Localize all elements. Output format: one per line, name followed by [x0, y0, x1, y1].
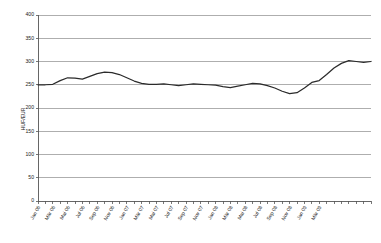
series-line-huf-eur [38, 61, 371, 94]
y-tick-label: 350 [26, 35, 35, 41]
y-tick-label: 300 [26, 58, 35, 64]
x-tick-label: Mai 07 [147, 204, 160, 220]
x-tick-label: Sep 07 [176, 204, 189, 221]
x-tick-label: Jul 07 [163, 204, 175, 219]
y-tick-label: 200 [26, 104, 35, 110]
y-axis-title-group: HUF/EUR [20, 107, 26, 130]
x-tick-label: Jan 07 [117, 204, 130, 220]
chart-container: 050100150200250300350400 Jan 06Mär 06Mai… [0, 0, 381, 243]
x-tick-label: Nov 08 [280, 204, 293, 221]
x-tick-label: Mai 08 [236, 204, 249, 220]
y-tick-label: 100 [26, 151, 35, 157]
x-tick-label: Mai 06 [58, 204, 71, 220]
x-tick-label: Sep 06 [87, 204, 100, 221]
y-axis-title: HUF/EUR [20, 107, 26, 130]
x-tick-label: Jan 09 [295, 204, 308, 220]
x-tick-label: Jan 08 [206, 204, 219, 220]
y-tick-label: 150 [26, 128, 35, 134]
x-tick-label: Jul 06 [74, 204, 86, 219]
x-tick-label: Nov 06 [102, 204, 115, 221]
x-tick-label: Jan 06 [29, 204, 42, 220]
y-tick-labels-group: 050100150200250300350400 [26, 11, 35, 203]
x-tick-label: Nov 07 [191, 204, 204, 221]
line-chart: 050100150200250300350400 Jan 06Mär 06Mai… [0, 0, 381, 243]
y-tick-label: 250 [26, 81, 35, 87]
x-tick-label: Mär 07 [132, 204, 145, 221]
gridlines-group [36, 15, 372, 201]
y-tick-label: 50 [28, 174, 34, 180]
x-tick-labels-group: Jan 06Mär 06Mai 06Jul 06Sep 06Nov 06Jan … [29, 204, 323, 221]
x-tick-label: Mär 09 [310, 204, 323, 221]
x-tick-label: Sep 08 [265, 204, 278, 221]
series-group [38, 61, 371, 94]
x-tick-label: Jul 08 [251, 204, 263, 219]
y-tick-label: 0 [31, 197, 34, 203]
x-tick-label: Mär 08 [221, 204, 234, 221]
x-tick-label: Mär 06 [43, 204, 56, 221]
y-tick-label: 400 [26, 11, 35, 17]
